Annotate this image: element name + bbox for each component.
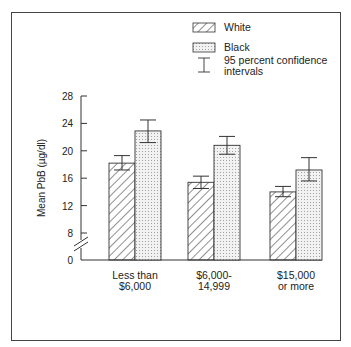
category-label: $6,000 (119, 280, 151, 292)
legend-swatch-black (193, 43, 215, 52)
y-axis-title: Mean PbB (µg/dl) (36, 139, 47, 217)
category-label: 14,999 (198, 280, 230, 292)
bar-black (214, 145, 240, 260)
bars (109, 120, 322, 260)
y-tick-label: 12 (62, 201, 74, 212)
bar-white (109, 163, 135, 260)
y-tick-label: 8 (67, 228, 73, 239)
y-tick-label: 28 (62, 91, 74, 102)
legend-label-ci-line2: intervals (224, 65, 263, 77)
category-label: or more (278, 280, 314, 292)
y-tick-label: 0 (67, 255, 73, 266)
bar-black (296, 170, 322, 260)
y-tick-label: 16 (62, 173, 74, 184)
legend-label-white: White (224, 21, 251, 33)
bar-black (135, 131, 161, 260)
legend-swatch-white (193, 23, 215, 32)
legend-ci-icon (198, 58, 210, 72)
y-tick-label: 20 (62, 146, 74, 157)
legend-label-black: Black (224, 41, 250, 53)
bar-chart: White Black 95 percent confidence interv… (0, 0, 351, 347)
bar-white (270, 192, 296, 260)
category-labels: Less than$6,000$6,000-14,999$15,000or mo… (112, 269, 315, 292)
y-tick-label: 24 (62, 118, 74, 129)
legend: White Black 95 percent confidence interv… (193, 21, 327, 77)
bar-white (188, 182, 214, 260)
